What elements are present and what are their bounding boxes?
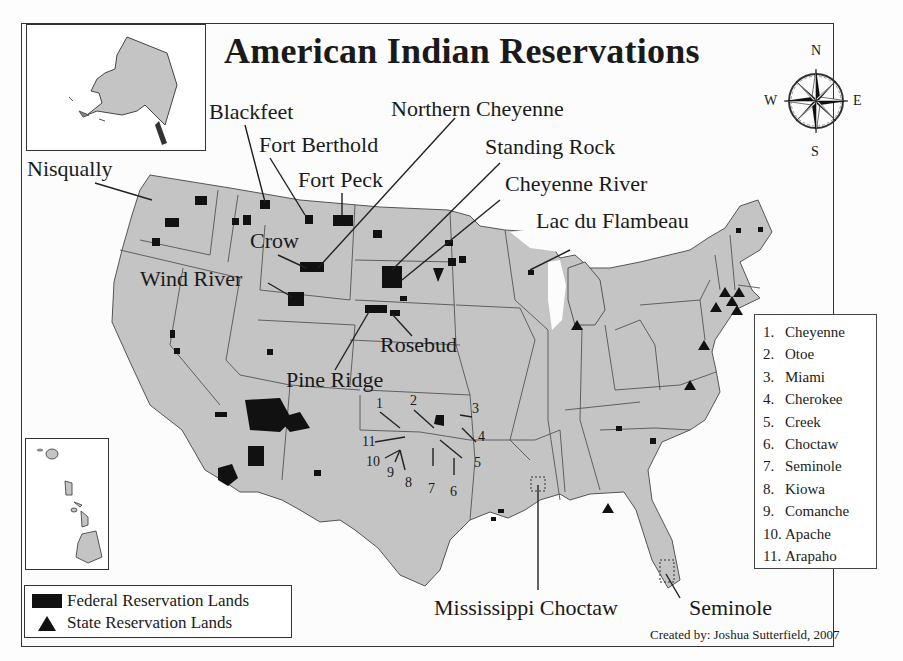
ok-number-7: 7 — [428, 482, 435, 496]
ok-number-4: 4 — [478, 430, 485, 444]
tribe-key-item: 11.Arapaho — [763, 545, 876, 567]
tribe-key-item: 4.Cherokee — [763, 388, 876, 410]
hawaii-shape — [26, 439, 107, 568]
label-standing-rock: Standing Rock — [485, 136, 615, 158]
tribe-key-item: 1.Cheyenne — [763, 321, 876, 343]
tribe-key-item: 5.Creek — [763, 411, 876, 433]
label-lac-du-flambeau: Lac du Flambeau — [536, 210, 689, 232]
label-pine-ridge: Pine Ridge — [286, 369, 383, 391]
compass-west-label: W — [764, 93, 777, 109]
ok-number-9: 9 — [387, 466, 394, 480]
ok-number-2: 2 — [410, 394, 417, 408]
ok-number-3: 3 — [472, 402, 479, 416]
ok-number-10: 10 — [366, 455, 380, 469]
label-fort-peck: Fort Peck — [298, 169, 383, 191]
tribe-key-item: 7.Seminole — [763, 455, 876, 477]
ok-number-6: 6 — [450, 485, 457, 499]
tribe-key-item: 10.Apache — [763, 523, 876, 545]
label-seminole: Seminole — [689, 597, 772, 619]
oklahoma-tribe-key: 1.Cheyenne 2.Otoe 3.Miami 4.Cherokee 5.C… — [754, 314, 877, 569]
label-northern-cheyenne: Northern Cheyenne — [391, 98, 564, 120]
state-land-triangle-icon — [38, 616, 56, 631]
map-credit: Created by: Joshua Sutterfield, 2007 — [650, 627, 840, 643]
alaska-inset — [26, 24, 206, 151]
label-blackfeet: Blackfeet — [209, 101, 293, 123]
legend-federal: Federal Reservation Lands — [31, 591, 249, 611]
alaska-shape — [27, 25, 204, 149]
map-title: American Indian Reservations — [224, 30, 700, 72]
tribe-key-item: 6.Choctaw — [763, 433, 876, 455]
hawaii-inset — [25, 438, 109, 570]
tribe-key-item: 9.Comanche — [763, 500, 876, 522]
tribe-key-item: 8.Kiowa — [763, 478, 876, 500]
label-wind-river: Wind River — [140, 268, 242, 290]
ok-number-8: 8 — [405, 476, 412, 490]
label-nisqually: Nisqually — [27, 158, 113, 180]
ok-number-1: 1 — [376, 397, 383, 411]
ok-number-5: 5 — [474, 456, 481, 470]
label-cheyenne-river: Cheyenne River — [505, 173, 647, 195]
map-legend: Federal Reservation Lands State Reservat… — [24, 585, 292, 638]
tribe-key-item: 2.Otoe — [763, 343, 876, 365]
label-rosebud: Rosebud — [380, 334, 457, 356]
compass-south-label: S — [811, 144, 819, 160]
compass-north-label: N — [811, 43, 821, 59]
label-mississippi-choctaw: Mississippi Choctaw — [434, 597, 618, 619]
legend-state: State Reservation Lands — [31, 613, 232, 633]
contiguous-us-land — [112, 175, 772, 588]
tribe-key-item: 3.Miami — [763, 366, 876, 388]
federal-land-swatch-icon — [32, 594, 62, 608]
label-fort-berthold: Fort Berthold — [259, 134, 378, 156]
ok-number-11: 11 — [362, 435, 375, 449]
compass-rose — [784, 69, 848, 133]
compass-east-label: E — [853, 93, 862, 109]
label-crow: Crow — [250, 230, 299, 252]
